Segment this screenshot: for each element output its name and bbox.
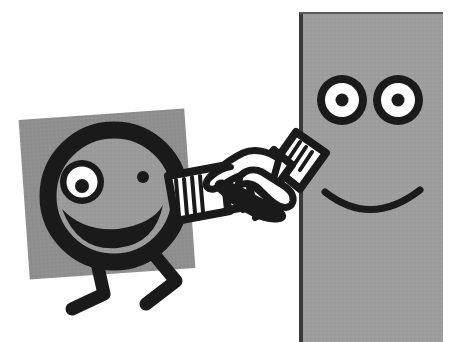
left-ring-eye: [317, 75, 367, 125]
gray-body-panel-top-edge: [299, 12, 443, 14]
illustration-canvas: Reluctant Handshake A worried round-head…: [0, 0, 457, 342]
scene-svg: [0, 0, 457, 342]
calm-rectangular-figure: [299, 12, 443, 342]
large-white-eye: [60, 160, 104, 204]
small-dot-eye: [137, 171, 149, 183]
right-ring-eye: [373, 75, 423, 125]
gray-body-panel-texture: [299, 12, 443, 342]
